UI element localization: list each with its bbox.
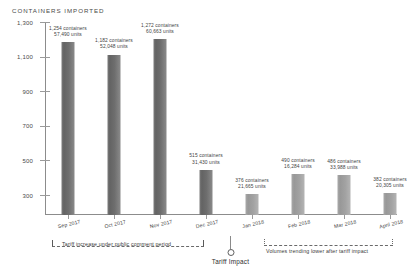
x-axis-label-mar-2018: Mar 2018 [333, 218, 357, 229]
y-tick-4: 500 [40, 160, 50, 161]
y-tick-label-4: 500 [22, 158, 33, 164]
x-tick-2 [160, 215, 161, 219]
bar-nov-2017: 1,272 containers 60,663 units [154, 39, 167, 215]
y-axis-line [45, 22, 46, 215]
bar-label-feb-2018: 490 containers 16,284 units [281, 158, 314, 170]
volumes-lower-bracket [264, 239, 393, 246]
y-tick-label-1: 1,100 [17, 54, 33, 60]
bar-label-april-2018: 382 containers 20,305 units [373, 177, 406, 189]
bar-feb-2018: 490 containers 16,284 units [292, 174, 305, 215]
bar-jan-2018: 376 containers 21,665 units [246, 194, 259, 215]
bar-dec-2017: 515 containers 31,430 units [200, 170, 213, 215]
y-tick-5: 300 [40, 195, 50, 196]
tariff-comment-annotation: Tariff increase under public comment per… [62, 241, 171, 247]
x-tick-7 [390, 215, 391, 219]
x-tick-3 [206, 215, 207, 219]
tariff-impact-line [230, 236, 231, 249]
x-tick-1 [114, 215, 115, 219]
plot-area: 1,300 1,100 900 700 500 300 1,254 contai… [45, 22, 397, 215]
bar-mar-2018: 486 containers 33,988 units [338, 175, 351, 215]
x-axis-label-jan-2018: Jan 2018 [242, 218, 265, 229]
x-tick-0 [68, 215, 69, 219]
y-tick-1: 1,100 [40, 57, 50, 58]
tariff-impact-marker-icon [227, 249, 234, 256]
x-tick-6 [344, 215, 345, 219]
y-tick-label-5: 300 [22, 193, 33, 199]
bar-oct-2017: 1,182 containers 52,048 units [108, 55, 121, 216]
x-tick-5 [298, 215, 299, 219]
bar-label-dec-2017: 515 containers 31,430 units [189, 153, 222, 165]
bar-label-sep-2017: 1,254 containers 57,490 units [49, 26, 87, 38]
bar-label-oct-2017: 1,182 containers 52,048 units [95, 38, 133, 50]
y-tick-3: 700 [40, 126, 50, 127]
volumes-lower-annotation: Volumes trending lower after tariff impa… [266, 248, 368, 254]
y-tick-0: 1,300 [40, 22, 50, 23]
y-tick-label-2: 900 [22, 89, 33, 95]
y-tick-label-0: 1,300 [17, 20, 33, 26]
x-axis-label-april-2018: April 2018 [379, 218, 404, 229]
bar-sep-2017: 1,254 containers 57,490 units [62, 42, 75, 215]
x-axis-label-feb-2018: Feb 2018 [287, 218, 311, 229]
bar-label-nov-2017: 1,272 containers 60,663 units [141, 23, 179, 35]
x-axis-label-dec-2017: Dec 2017 [195, 218, 219, 229]
y-tick-2: 900 [40, 91, 50, 92]
bar-label-mar-2018: 486 containers 33,988 units [327, 159, 360, 171]
x-axis-label-sep-2017: Sep 2017 [57, 218, 81, 229]
y-tick-label-3: 700 [22, 123, 33, 129]
chart-title: CONTAINERS IMPORTED [12, 7, 104, 14]
x-axis-label-nov-2017: Nov 2017 [149, 218, 173, 229]
tariff-impact-label: Tariff Impact [212, 258, 249, 265]
bar-april-2018: 382 containers 20,305 units [384, 193, 397, 215]
x-tick-4 [252, 215, 253, 219]
x-axis-label-oct-2017: Oct 2017 [104, 218, 127, 229]
bar-label-jan-2018: 376 containers 21,665 units [235, 178, 268, 190]
